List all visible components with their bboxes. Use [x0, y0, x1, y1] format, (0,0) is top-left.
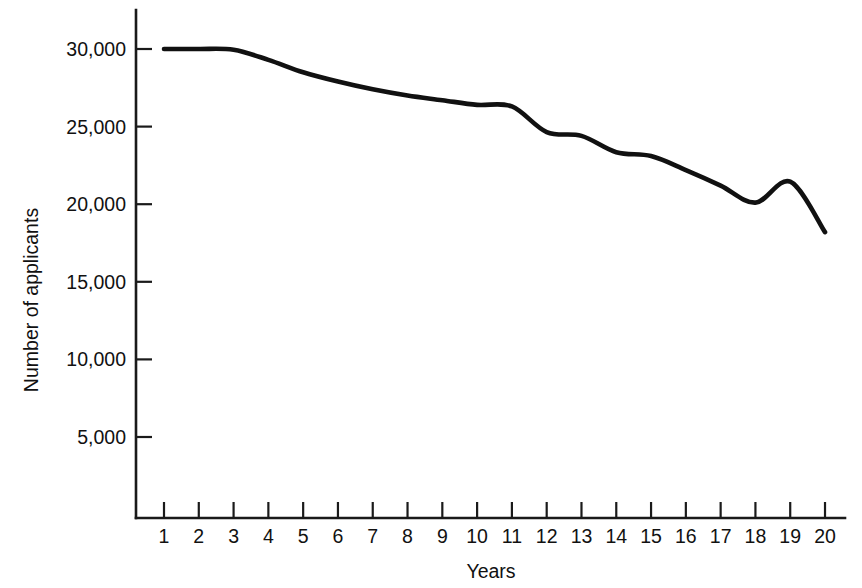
x-tick-label: 7: [367, 525, 378, 547]
x-tick-label: 2: [193, 525, 204, 547]
x-tick-label: 6: [333, 525, 344, 547]
x-tick-label: 4: [263, 525, 274, 547]
x-axis-title: Years: [466, 560, 515, 582]
x-axis-ticks: 1234567891011121314151617181920: [159, 502, 836, 547]
y-axis-ticks: 5,00010,00015,00020,00025,00030,000: [66, 38, 152, 448]
x-tick-label: 19: [779, 525, 801, 547]
chart-figure: 5,00010,00015,00020,00025,00030,000 1234…: [0, 0, 862, 588]
y-tick-label: 25,000: [66, 116, 126, 138]
x-tick-label: 3: [228, 525, 239, 547]
line-chart-canvas: 5,00010,00015,00020,00025,00030,000 1234…: [0, 0, 862, 588]
x-tick-label: 15: [640, 525, 662, 547]
x-tick-label: 17: [710, 525, 732, 547]
x-tick-label: 20: [814, 525, 836, 547]
y-tick-label: 5,000: [77, 426, 126, 448]
x-tick-label: 1: [159, 525, 170, 547]
x-tick-label: 12: [536, 525, 558, 547]
y-tick-label: 20,000: [66, 193, 126, 215]
x-tick-label: 14: [605, 525, 627, 547]
x-tick-label: 9: [437, 525, 448, 547]
x-tick-label: 13: [571, 525, 593, 547]
x-tick-label: 16: [675, 525, 697, 547]
applicants-line-series: [164, 49, 825, 232]
y-tick-label: 30,000: [66, 38, 126, 60]
x-tick-label: 10: [466, 525, 488, 547]
y-axis-title: Number of applicants: [20, 208, 42, 393]
y-tick-label: 10,000: [66, 348, 126, 370]
x-tick-label: 11: [502, 525, 522, 547]
x-tick-label: 5: [298, 525, 309, 547]
y-tick-label: 15,000: [66, 271, 126, 293]
x-tick-label: 18: [745, 525, 767, 547]
x-tick-label: 8: [402, 525, 413, 547]
